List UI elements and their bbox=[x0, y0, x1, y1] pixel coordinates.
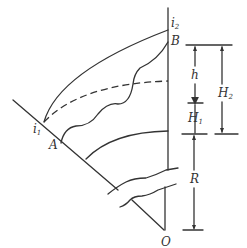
label-i1: i1 bbox=[33, 122, 41, 137]
label-B: B bbox=[170, 34, 180, 48]
dashed-arc bbox=[44, 81, 168, 122]
left-radius-line bbox=[13, 100, 118, 190]
label-O: O bbox=[161, 235, 171, 248]
outer-arc bbox=[44, 30, 168, 122]
label-H2: H2 bbox=[217, 86, 233, 101]
break-line-lower bbox=[120, 184, 176, 207]
inner-arc bbox=[86, 131, 168, 159]
dim-r-arrow-down bbox=[192, 225, 196, 230]
sector-diagram: i2 B i1 A O h H1 H2 R bbox=[0, 0, 247, 248]
label-R: R bbox=[189, 172, 199, 186]
left-radius-lower-line bbox=[132, 200, 164, 230]
label-i2: i2 bbox=[171, 16, 180, 31]
dim-h2-arrow-up bbox=[220, 46, 224, 51]
label-A: A bbox=[48, 138, 58, 152]
dim-h-arrow-up bbox=[193, 46, 197, 51]
dim-h2-arrow-down bbox=[220, 128, 224, 133]
label-h: h bbox=[191, 68, 199, 82]
dim-r-arrow-up bbox=[192, 135, 196, 140]
wavy-profile bbox=[61, 42, 168, 143]
label-H1: H1 bbox=[187, 111, 203, 126]
